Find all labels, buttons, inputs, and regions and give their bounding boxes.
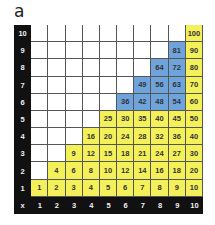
grid-cell [117,77,134,94]
column-axis-label: 10 [186,197,203,214]
row-axis-label: 7 [14,77,31,94]
grid-cell [31,128,48,145]
grid-cell: 20 [186,162,203,179]
grid-cell: 50 [186,111,203,128]
grid-cell: 30 [186,145,203,162]
grid-cell: 14 [134,162,151,179]
grid-cell [48,42,65,59]
grid-cell: 18 [169,162,186,179]
grid-cell: 16 [83,128,100,145]
grid-cell: 9 [66,145,83,162]
grid-cell: 25 [100,111,117,128]
grid-cell [48,111,65,128]
grid-cell: 20 [100,128,117,145]
grid-cell [48,77,65,94]
grid-cell [151,42,168,59]
grid-cell: 42 [134,94,151,111]
grid-cell: 35 [134,111,151,128]
grid-cell: 1 [31,180,48,197]
grid-cell: 12 [83,145,100,162]
row-axis-label: 5 [14,111,31,128]
grid-cell [48,145,65,162]
column-axis-label: 7 [134,197,151,214]
grid-cell: 36 [169,128,186,145]
grid-cell [117,25,134,42]
row-axis-label: 2 [14,162,31,179]
grid-cell [66,94,83,111]
row-axis-label: 8 [14,59,31,76]
row-axis-label: 9 [14,42,31,59]
grid-cell: 18 [117,145,134,162]
grid-cell: 63 [169,77,186,94]
panel-label: a [14,1,24,21]
grid-cell: 32 [151,128,168,145]
grid-cell [31,111,48,128]
row-axis-label: 1 [14,180,31,197]
column-axis-label: 3 [66,197,83,214]
grid-cell: 4 [83,180,100,197]
grid-cell [100,77,117,94]
grid-cell: 27 [169,145,186,162]
corner-label: x [14,197,31,214]
column-axis-label: 1 [31,197,48,214]
grid-cell [66,111,83,128]
grid-cell [83,77,100,94]
grid-cell: 48 [151,94,168,111]
multiplication-grid: 1010098190864728074956637063642485460525… [14,25,203,214]
grid-cell: 36 [117,94,134,111]
grid-cell [100,25,117,42]
grid-cell [31,25,48,42]
grid-cell: 49 [134,77,151,94]
grid-cell: 80 [186,59,203,76]
column-axis-label: 6 [117,197,134,214]
grid-cell [100,59,117,76]
grid-cell: 5 [100,180,117,197]
column-axis-label: 4 [83,197,100,214]
grid-cell [83,111,100,128]
grid-cell: 15 [100,145,117,162]
row-axis-label: 6 [14,94,31,111]
grid-cell [83,42,100,59]
grid-cell: 7 [134,180,151,197]
row-axis-label: 3 [14,145,31,162]
grid-cell: 2 [48,180,65,197]
grid-cell: 3 [66,180,83,197]
grid-cell [83,59,100,76]
grid-cell [48,128,65,145]
grid-cell: 12 [117,162,134,179]
grid-cell [169,25,186,42]
grid-cell [31,77,48,94]
grid-cell [48,94,65,111]
grid-cell: 28 [134,128,151,145]
grid-cell [83,94,100,111]
grid-cell: 54 [169,94,186,111]
grid-cell: 81 [169,42,186,59]
grid-cell [48,59,65,76]
grid-cell: 8 [83,162,100,179]
grid-cell [66,59,83,76]
row-axis-label: 10 [14,25,31,42]
grid-cell [31,94,48,111]
grid-cell: 40 [186,128,203,145]
grid-cell: 30 [117,111,134,128]
column-axis-label: 8 [151,197,168,214]
grid-cell: 64 [151,59,168,76]
grid-cell [134,25,151,42]
grid-cell: 6 [66,162,83,179]
grid-cell: 60 [186,94,203,111]
grid-cell [48,25,65,42]
grid-cell: 4 [48,162,65,179]
grid-cell [100,94,117,111]
grid-cell: 40 [151,111,168,128]
grid-cell: 90 [186,42,203,59]
grid-cell: 9 [169,180,186,197]
grid-cell [117,42,134,59]
grid-cell: 8 [151,180,168,197]
grid-cell [151,25,168,42]
grid-cell: 10 [186,180,203,197]
grid-cell: 6 [117,180,134,197]
row-axis-label: 4 [14,128,31,145]
grid-cell [31,42,48,59]
grid-cell: 21 [134,145,151,162]
grid-cell [134,59,151,76]
